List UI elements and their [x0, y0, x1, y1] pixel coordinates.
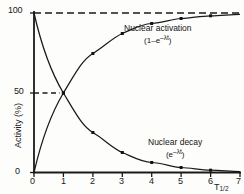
activation-formula-exponent: –λt	[160, 34, 169, 41]
x-tick-label-2: 2	[90, 176, 95, 186]
annotation-nuclear-decay: Nuclear decay (e–λt)	[148, 138, 202, 159]
decay-data-markers	[62, 92, 212, 172]
activation-label-name: Nuclear activation	[124, 23, 192, 33]
x-tick-label-1: 1	[61, 176, 66, 186]
y-tick-label-100: 100	[8, 5, 22, 15]
y-axis-title: Activity (%)	[13, 103, 23, 148]
decay-formula-pre: (e	[166, 150, 173, 159]
x-tick-label-5: 5	[178, 176, 183, 186]
activation-formula-pre: (1–e	[144, 36, 160, 45]
decay-formula-exponent: –λt	[173, 148, 182, 155]
activation-label-formula: (1–e–λt)	[124, 34, 192, 45]
decay-formula-post: )	[182, 150, 185, 159]
x-tick-label-0: 0	[30, 176, 35, 186]
annotation-nuclear-activation: Nuclear activation (1–e–λt)	[124, 24, 192, 45]
decay-label-name: Nuclear decay	[148, 137, 202, 147]
x-tick-label-3: 3	[119, 176, 124, 186]
decay-label-formula: (e–λt)	[148, 148, 202, 159]
chart-plot-area	[0, 0, 244, 194]
x-tick-label-4: 4	[149, 176, 154, 186]
nuclear-activation-decay-figure: Activity (%) 0 50 100 0 1 2 3 4 5 6 7 T1…	[0, 0, 244, 194]
x-axis-title: T1/2	[214, 182, 229, 192]
x-axis-title-subscript: 1/2	[220, 185, 229, 192]
y-tick-label-50: 50	[14, 86, 23, 96]
x-tick-label-7: 7	[236, 176, 241, 186]
x-tick-label-6: 6	[208, 176, 213, 186]
y-tick-label-0: 0	[15, 166, 20, 176]
activation-formula-post: )	[169, 36, 172, 45]
